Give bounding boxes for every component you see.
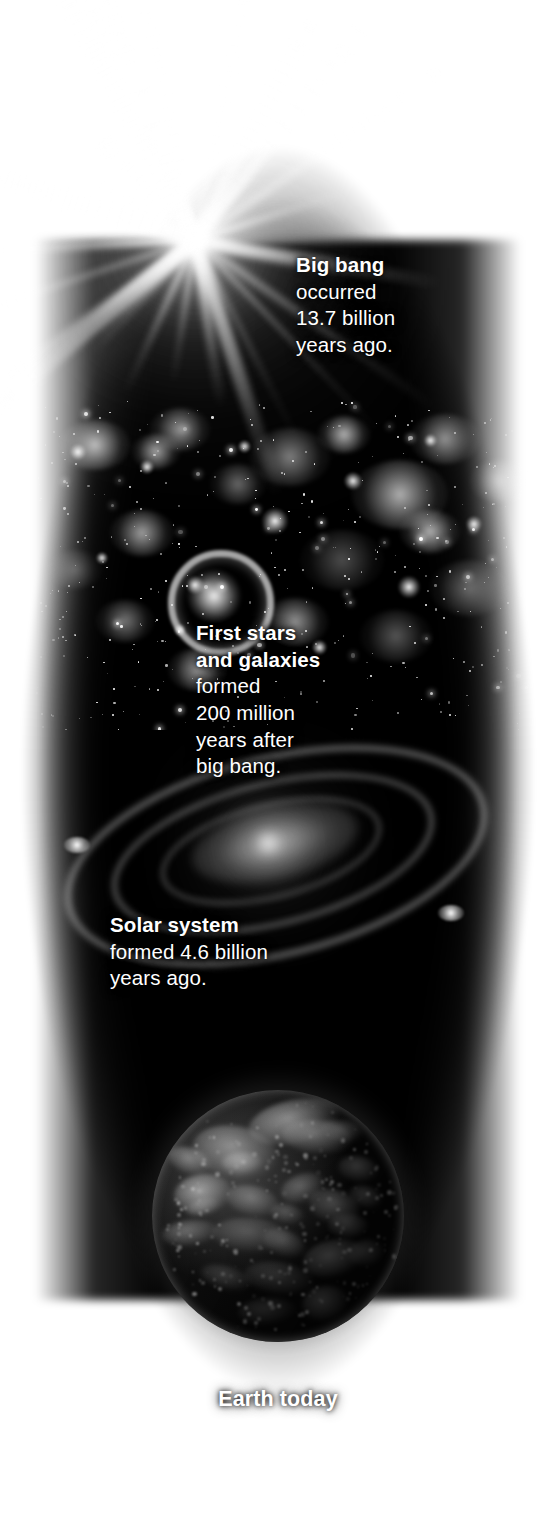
star — [50, 593, 51, 594]
star — [372, 456, 374, 458]
star-cluster — [238, 440, 251, 453]
star — [388, 425, 391, 428]
star — [38, 477, 39, 478]
star — [52, 639, 55, 642]
star — [87, 485, 89, 487]
nebula-glow — [210, 464, 266, 504]
star — [397, 712, 399, 714]
star — [62, 616, 64, 618]
star — [67, 592, 68, 593]
star — [403, 453, 405, 455]
star — [79, 718, 80, 719]
star — [157, 450, 159, 452]
star — [462, 504, 463, 505]
star — [267, 527, 270, 530]
star — [255, 498, 256, 499]
star — [250, 419, 251, 420]
star — [109, 639, 111, 641]
star — [21, 412, 23, 414]
star — [62, 636, 64, 638]
star — [36, 525, 37, 526]
star — [29, 601, 31, 603]
star — [390, 666, 392, 668]
star — [273, 506, 274, 507]
star — [527, 428, 530, 431]
star — [411, 420, 413, 422]
star — [165, 482, 167, 484]
star — [218, 573, 220, 575]
star — [440, 711, 442, 713]
star — [37, 687, 38, 688]
star — [521, 555, 523, 557]
star-cluster — [70, 444, 86, 460]
star — [202, 613, 204, 615]
star — [284, 569, 286, 571]
star — [178, 708, 182, 712]
star — [157, 641, 159, 643]
star — [310, 411, 312, 413]
star — [111, 536, 112, 537]
star — [454, 432, 456, 434]
caption-big-bang-heading: Big bang — [296, 253, 385, 276]
caption-first-stars-heading-line2: and galaxies — [196, 648, 320, 671]
caption-big-bang: Big bang occurred 13.7 billion years ago… — [296, 252, 446, 359]
star — [178, 630, 180, 632]
star — [425, 575, 427, 577]
star — [314, 463, 315, 464]
star — [497, 649, 499, 651]
star — [139, 429, 141, 431]
star — [445, 540, 449, 544]
star — [490, 419, 492, 421]
galaxy-knot-right — [438, 905, 464, 921]
star — [312, 587, 314, 589]
star — [343, 520, 344, 521]
star — [68, 585, 70, 587]
star — [303, 493, 305, 495]
star — [493, 656, 495, 658]
star — [211, 416, 213, 418]
star — [259, 404, 261, 406]
star — [345, 404, 346, 405]
star — [63, 507, 65, 509]
star — [402, 662, 404, 664]
star — [24, 452, 25, 453]
earth-globe — [152, 1090, 404, 1342]
nebula-glow — [132, 434, 180, 469]
star — [195, 546, 197, 548]
star — [457, 611, 458, 612]
star — [75, 635, 76, 636]
star — [443, 617, 445, 619]
caption-first-stars: First stars and galaxies formed 200 mill… — [196, 620, 376, 780]
star — [229, 448, 233, 452]
star — [140, 508, 142, 510]
star — [77, 541, 79, 543]
star — [39, 484, 40, 485]
star — [45, 444, 46, 445]
caption-solar-system: Solar system formed 4.6 billion years ag… — [110, 912, 360, 992]
star — [98, 405, 99, 406]
star — [52, 590, 53, 591]
star — [353, 405, 356, 408]
star — [434, 584, 436, 586]
star — [358, 462, 360, 464]
caption-first-stars-line3: years after — [196, 728, 294, 751]
star — [59, 436, 60, 437]
star — [27, 551, 29, 553]
star — [103, 662, 105, 664]
star — [271, 552, 272, 553]
star — [526, 643, 527, 644]
star — [519, 713, 520, 714]
star — [348, 578, 350, 580]
star — [179, 547, 180, 548]
star — [147, 424, 148, 425]
star — [395, 555, 396, 556]
star — [59, 619, 60, 620]
star — [37, 407, 39, 409]
star — [27, 502, 29, 504]
star — [288, 511, 290, 513]
star — [517, 723, 518, 724]
star — [116, 622, 119, 625]
star — [532, 723, 536, 727]
star — [485, 492, 487, 494]
caption-solar-system-line1: formed 4.6 billion — [110, 940, 268, 963]
